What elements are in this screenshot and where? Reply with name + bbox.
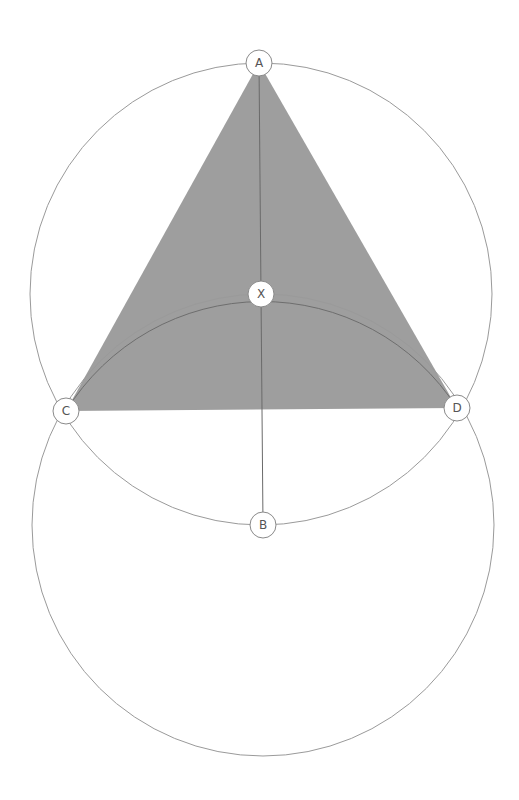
point-x: X	[248, 281, 274, 307]
point-c: C	[53, 398, 79, 424]
point-x-label: X	[257, 287, 265, 301]
point-c-label: C	[62, 404, 70, 418]
point-a: A	[246, 50, 272, 76]
point-b: B	[250, 512, 276, 538]
point-d: D	[444, 395, 470, 421]
point-a-label: A	[255, 56, 264, 70]
point-b-label: B	[259, 518, 267, 532]
point-d-label: D	[452, 401, 461, 415]
vesica-diagram: A X C D B	[0, 0, 519, 800]
